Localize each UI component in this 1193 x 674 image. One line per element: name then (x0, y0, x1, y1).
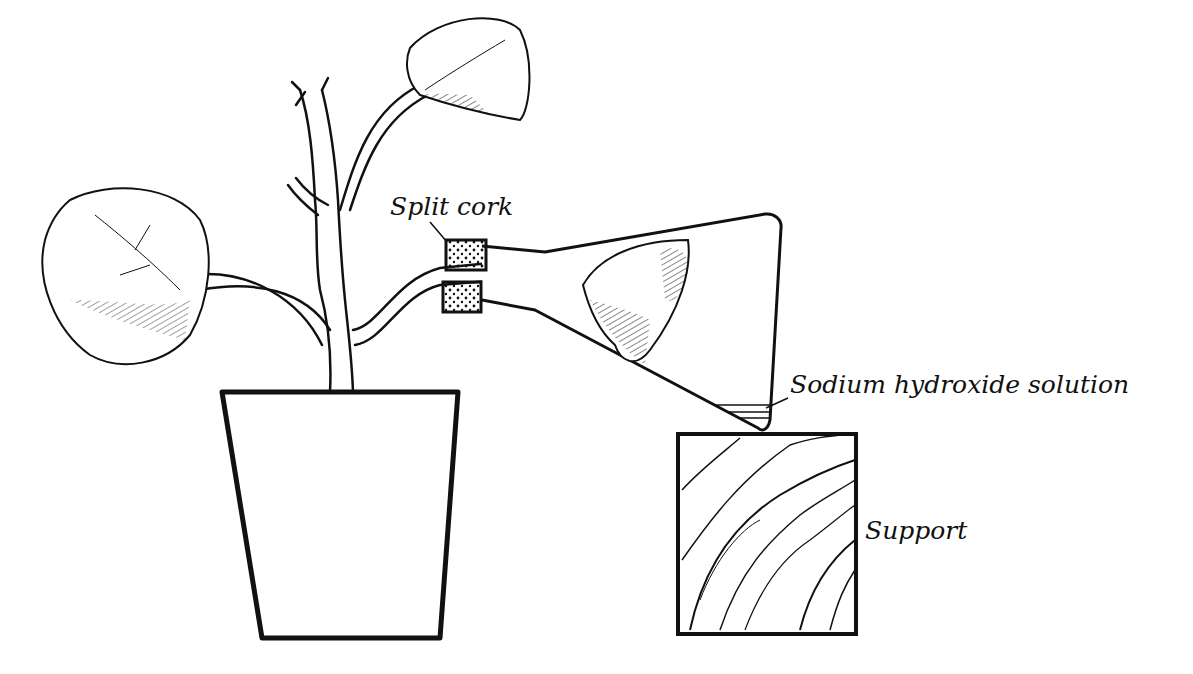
wooden-support (678, 434, 856, 634)
leaf-left (42, 188, 208, 364)
split-cork (430, 222, 486, 312)
plant-pot (222, 392, 458, 638)
label-support: Support (865, 516, 967, 545)
plant-stem (190, 78, 590, 392)
label-split-cork: Split cork (390, 192, 513, 221)
experiment-diagram (0, 0, 1193, 674)
leaf-top (407, 18, 529, 120)
label-sodium-hydroxide-solution: Sodium hydroxide solution (790, 370, 1129, 399)
